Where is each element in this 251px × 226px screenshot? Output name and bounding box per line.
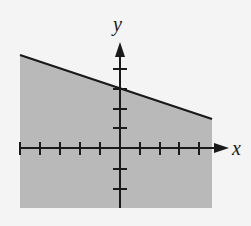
y-axis-arrow-icon [115, 42, 125, 57]
x-axis-arrow-icon [214, 143, 229, 153]
shaded-region [20, 55, 212, 208]
inequality-graph: x y [0, 0, 251, 226]
y-axis-label: y [111, 13, 122, 36]
x-axis-label: x [231, 137, 241, 159]
